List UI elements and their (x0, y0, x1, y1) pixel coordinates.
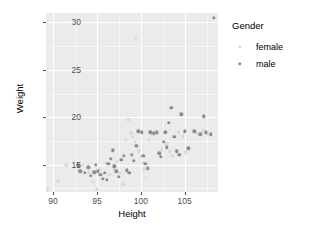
data-point (172, 135, 175, 138)
data-point (103, 171, 106, 174)
data-point (83, 171, 86, 174)
legend-dot-icon (238, 62, 241, 65)
data-point (164, 131, 167, 134)
data-point (146, 167, 149, 170)
legend-key-male (232, 56, 247, 71)
data-point (92, 180, 95, 183)
data-point (57, 179, 60, 182)
x-tick-label: 105 (178, 196, 192, 206)
legend-title: Gender (232, 20, 308, 31)
data-point (199, 133, 202, 136)
data-point (128, 171, 131, 174)
data-point (209, 133, 212, 136)
y-tick-label: 30 (72, 17, 81, 27)
data-point (179, 113, 182, 116)
y-tick-label: 20 (72, 112, 81, 122)
x-tick-label: 90 (48, 196, 57, 206)
data-point (168, 150, 171, 153)
data-point (212, 16, 215, 19)
data-point (134, 36, 137, 39)
legend-key-female (232, 39, 247, 54)
data-point (111, 149, 114, 152)
data-point (130, 153, 133, 156)
legend-item-male[interactable]: male (232, 55, 308, 72)
y-tick-mark (43, 165, 46, 166)
data-point (177, 131, 180, 134)
data-point (127, 118, 130, 121)
data-point (109, 157, 112, 160)
data-point (178, 153, 181, 156)
legend-label: male (256, 59, 276, 69)
data-point (105, 178, 108, 181)
data-point (142, 154, 145, 157)
y-axis-title: Weight (14, 59, 25, 139)
data-point (81, 163, 84, 166)
gridline-horizontal (46, 188, 218, 189)
data-point (132, 159, 135, 162)
data-point (184, 151, 187, 154)
data-point (107, 173, 110, 176)
data-point (79, 169, 82, 172)
y-tick-mark (43, 70, 46, 71)
data-point (186, 147, 189, 150)
data-point (171, 154, 174, 157)
data-point (95, 187, 98, 190)
data-point (46, 187, 49, 190)
x-tick-label: 95 (92, 196, 101, 206)
x-tick-mark (53, 192, 54, 195)
x-tick-mark (97, 192, 98, 195)
y-tick-label: 15 (72, 160, 81, 170)
data-point (170, 106, 173, 109)
data-point (183, 130, 186, 133)
x-tick-mark (141, 192, 142, 195)
data-point (131, 135, 134, 138)
data-point (117, 175, 120, 178)
data-point (86, 166, 89, 169)
x-tick-mark (185, 192, 186, 195)
legend-dot-icon (238, 45, 241, 48)
data-point (64, 164, 67, 167)
data-point (113, 165, 116, 168)
data-point (167, 121, 170, 124)
data-point (89, 174, 92, 177)
gridline-horizontal (46, 94, 218, 95)
legend-items: femalemale (232, 38, 308, 72)
scatter-plot-figure: 909510010515202530 Height Weight Gender … (0, 0, 309, 243)
x-axis-title: Height (46, 208, 218, 219)
x-tick-label: 100 (134, 196, 148, 206)
y-tick-mark (43, 117, 46, 118)
y-tick-label: 25 (72, 65, 81, 75)
data-point (144, 176, 147, 179)
y-tick-mark (43, 22, 46, 23)
data-point (120, 158, 123, 161)
legend: Gender femalemale (232, 20, 308, 72)
data-point (140, 131, 143, 134)
data-point (122, 154, 125, 157)
legend-item-female[interactable]: female (232, 38, 308, 55)
gridline-horizontal (46, 46, 218, 47)
data-point (122, 183, 125, 186)
legend-label: female (256, 42, 283, 52)
